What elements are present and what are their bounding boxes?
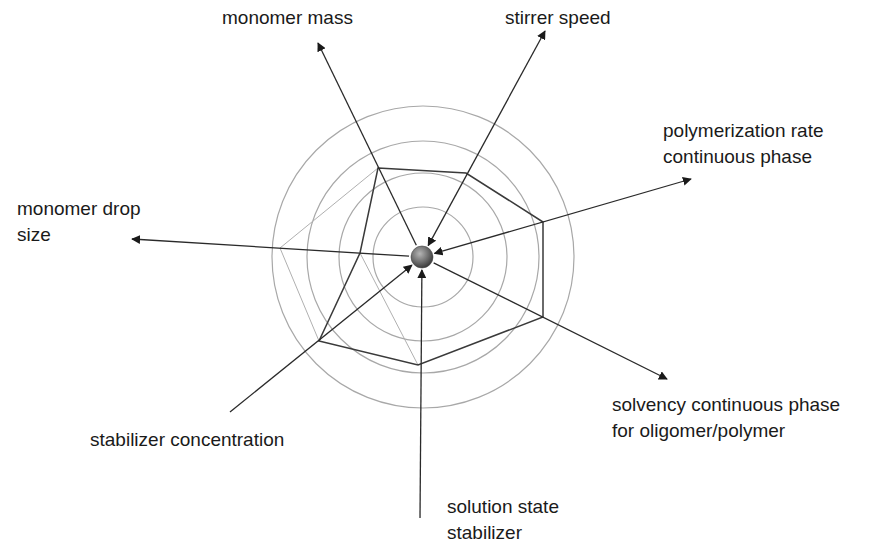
axis-monomer-mass xyxy=(318,43,416,245)
secondary-profile xyxy=(280,168,378,341)
label-solvency: solvency continuous phasefor oligomer/po… xyxy=(612,392,840,444)
parameter-polygons xyxy=(280,168,543,365)
label-stirrer-speed: stirrer speed xyxy=(505,5,611,31)
label-stabilizer-concentration: stabilizer concentration xyxy=(90,427,284,453)
label-monomer-mass: monomer mass xyxy=(222,5,353,31)
secondary-profile-segment xyxy=(360,253,418,365)
label-polymerization-rate: polymerization ratecontinuous phase xyxy=(663,118,824,170)
axis-monomer-drop-size xyxy=(132,239,409,256)
label-monomer-drop-size: monomer dropsize xyxy=(17,196,141,248)
label-solution-state-stabilizer: solution statestabilizer xyxy=(447,494,559,546)
axis-solvency xyxy=(434,263,667,379)
radar-diagram xyxy=(0,0,889,558)
axis-stabilizer-concentration xyxy=(230,265,412,412)
main-profile xyxy=(319,168,543,365)
axis-stirrer-speed xyxy=(428,31,545,246)
particle-center-icon xyxy=(411,246,433,268)
